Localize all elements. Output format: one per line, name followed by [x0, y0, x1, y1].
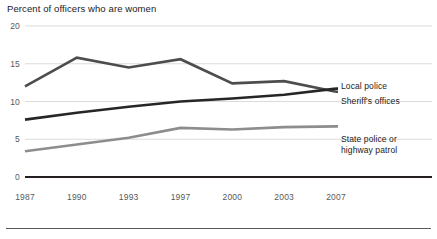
series-line: [25, 58, 336, 92]
line-chart-plot: [0, 0, 437, 239]
series-line: [25, 89, 336, 120]
y-axis-tick-label: 0: [2, 172, 20, 182]
series-label-sheriffs-offices: Sheriff's offices: [341, 96, 400, 107]
x-axis-tick-label: 1987: [5, 192, 45, 202]
x-axis-tick-label: 2000: [212, 192, 252, 202]
x-axis-tick-label: 2003: [264, 192, 304, 202]
series-label-state-police: State police or highway patrol: [341, 134, 397, 155]
y-axis-tick-label: 15: [2, 59, 20, 69]
series-label-local-police: Local police: [341, 81, 387, 92]
y-axis-tick-label: 20: [2, 21, 20, 31]
series-label-state-police-line1: State police or: [341, 134, 397, 144]
series-lines: [25, 58, 336, 152]
footer-divider: [6, 228, 431, 229]
legend-swatches: [336, 89, 338, 127]
x-axis-tick-label: 1993: [109, 192, 149, 202]
y-axis-tick-label: 5: [2, 134, 20, 144]
x-axis-tick-label: 1990: [57, 192, 97, 202]
y-axis-tick-label: 10: [2, 97, 20, 107]
x-axis-tick-label: 2007: [316, 192, 356, 202]
series-label-state-police-line2: highway patrol: [341, 145, 397, 155]
x-axis-tick-label: 1997: [161, 192, 201, 202]
chart-container: Percent of officers who are women 051015…: [0, 0, 437, 239]
